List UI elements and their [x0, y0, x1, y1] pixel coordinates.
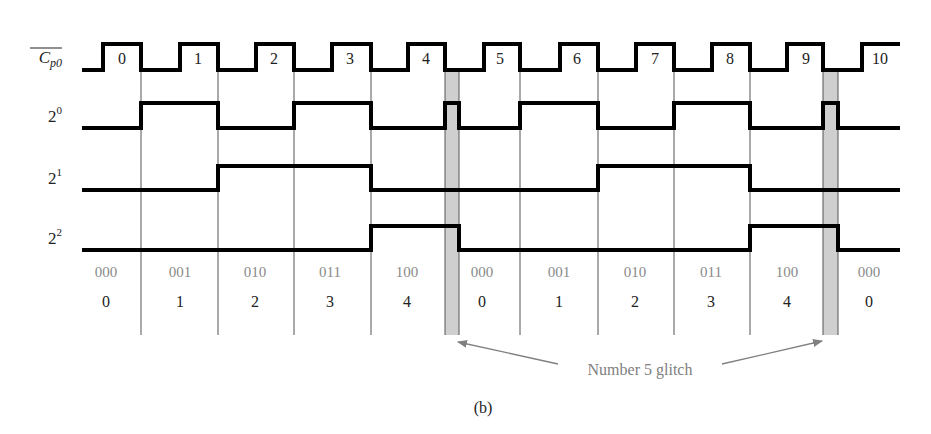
- figure-caption: (b): [474, 399, 493, 417]
- state-labels: 0000001101020113100400000011010201131004…: [95, 264, 881, 310]
- state-binary: 000: [471, 264, 494, 280]
- state-binary: 011: [319, 264, 341, 280]
- pulse-number: 4: [422, 50, 430, 67]
- state-binary: 100: [776, 264, 799, 280]
- state-binary: 000: [95, 264, 118, 280]
- state-binary: 010: [244, 264, 267, 280]
- state-decimal: 0: [102, 293, 110, 310]
- pulse-number: 6: [573, 50, 581, 67]
- pulse-number: 5: [496, 50, 504, 67]
- timing-diagram-figure: Cp0202122 012345678910 00000011010201131…: [0, 0, 931, 434]
- state-decimal: 1: [176, 293, 184, 310]
- signal-label-q0: 20: [48, 104, 63, 126]
- state-decimal: 3: [707, 293, 715, 310]
- waveform-cp0: [82, 44, 900, 70]
- state-binary: 001: [548, 264, 571, 280]
- signal-label-q2: 22: [48, 226, 62, 248]
- waveform-q1: [82, 166, 900, 190]
- state-decimal: 1: [555, 293, 563, 310]
- waveforms: [82, 44, 900, 250]
- state-binary: 011: [700, 264, 722, 280]
- clock-pulse-numbers: 012345678910: [118, 50, 888, 67]
- left-arrow: [458, 342, 558, 364]
- glitch-annotation: Number 5 glitch: [458, 341, 822, 379]
- pulse-number: 3: [346, 50, 354, 67]
- waveform-q0: [82, 103, 900, 128]
- pulse-number: 0: [118, 50, 126, 67]
- state-decimal: 2: [251, 293, 259, 310]
- state-decimal: 4: [783, 293, 791, 310]
- pulse-number: 8: [726, 50, 734, 67]
- right-arrow: [722, 341, 822, 364]
- state-decimal: 0: [478, 293, 486, 310]
- state-binary: 100: [396, 264, 419, 280]
- state-decimal: 3: [326, 293, 334, 310]
- state-decimal: 2: [631, 293, 639, 310]
- signal-label-q1: 21: [48, 166, 62, 188]
- pulse-number: 2: [270, 50, 278, 67]
- signal-label-cp0: Cp0: [39, 48, 62, 70]
- state-binary: 000: [858, 264, 881, 280]
- glitch-band: [445, 72, 459, 335]
- pulse-number: 9: [802, 50, 810, 67]
- state-decimal: 0: [865, 293, 873, 310]
- state-decimal: 4: [403, 293, 411, 310]
- pulse-number: 10: [872, 50, 888, 67]
- glitch-bands: [445, 72, 838, 335]
- glitch-band: [823, 72, 838, 335]
- glitch-annotation-text: Number 5 glitch: [588, 361, 693, 379]
- signal-labels: Cp0202122: [30, 48, 63, 248]
- gridlines: [141, 70, 838, 335]
- timing-diagram: Cp0202122 012345678910 00000011010201131…: [0, 0, 931, 434]
- state-binary: 010: [624, 264, 647, 280]
- pulse-number: 7: [651, 50, 659, 67]
- state-binary: 001: [169, 264, 192, 280]
- pulse-number: 1: [194, 50, 202, 67]
- waveform-q2: [82, 226, 900, 250]
